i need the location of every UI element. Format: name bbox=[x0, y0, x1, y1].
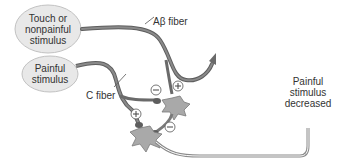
abeta-fiber bbox=[82, 17, 216, 94]
label-line: Painful bbox=[22, 63, 78, 74]
plus-sign-icon-1 bbox=[173, 81, 183, 91]
minus-sign-icon-1 bbox=[151, 85, 161, 95]
touch-stimulus-label: Touch or nonpainful stimulus bbox=[15, 13, 81, 46]
label-line: nonpainful bbox=[15, 24, 81, 35]
output-label: Painful stimulus decreased bbox=[280, 76, 336, 109]
label-line: Touch or bbox=[15, 13, 81, 24]
c-fiber-label: C fiber bbox=[86, 90, 115, 101]
painful-stimulus-label: Painful stimulus bbox=[22, 63, 78, 85]
abeta-fiber-label: Aβ fiber bbox=[153, 16, 188, 27]
projection-neuron bbox=[130, 122, 308, 156]
plus-sign-icon-2 bbox=[131, 109, 141, 119]
label-line: stimulus bbox=[15, 35, 81, 46]
label-line: stimulus bbox=[280, 87, 336, 98]
label-line: Painful bbox=[280, 76, 336, 87]
label-line: decreased bbox=[280, 98, 336, 109]
minus-sign-icon-2 bbox=[165, 122, 175, 132]
label-line: stimulus bbox=[22, 74, 78, 85]
